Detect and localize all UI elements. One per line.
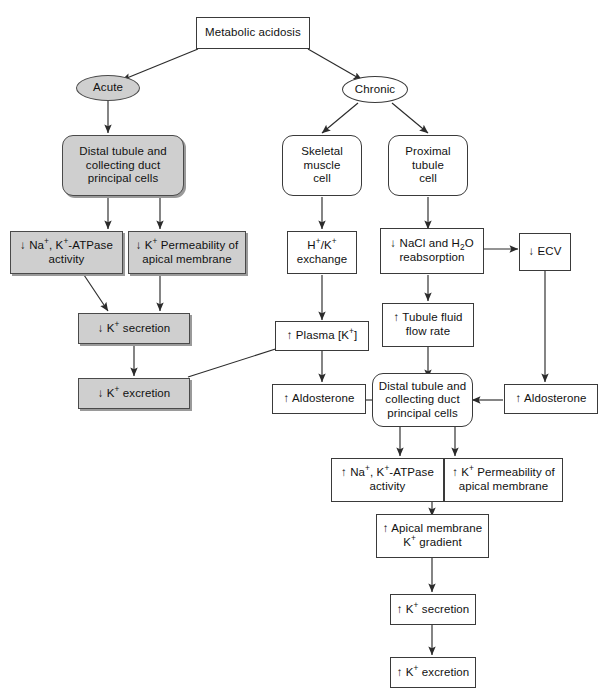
node-proximal-tubule-cell[interactable]: Proximaltubulecell bbox=[388, 135, 468, 196]
node-chronic-distal-tubule[interactable]: Distal tubule andcollecting ductprincipa… bbox=[372, 373, 473, 427]
node-h-k-exchange[interactable]: H+/K+exchange bbox=[287, 231, 357, 274]
node-dec-k-permeability[interactable]: ↓ K+ Permeability ofapical membrane bbox=[128, 231, 246, 274]
node-dec-na-k-atpase-label: ↓ Na+, K+-ATPaseactivity bbox=[17, 239, 116, 266]
node-dec-k-secretion[interactable]: ↓ K+ secretion bbox=[78, 313, 190, 344]
node-acute-distal-tubule[interactable]: Distal tubule andcollecting ductprincipa… bbox=[62, 135, 184, 196]
node-dec-k-secretion-label: ↓ K+ secretion bbox=[95, 322, 174, 336]
node-inc-apical-gradient-label: ↑ Apical membraneK+ gradient bbox=[380, 522, 486, 549]
node-dec-nacl-h2o[interactable]: ↓ NaCl and H2Oreabsorption bbox=[380, 228, 484, 274]
flowchart-canvas: Metabolic acidosis Acute Chronic Distal … bbox=[0, 0, 607, 689]
node-inc-na-k-atpase[interactable]: ↑ Na+, K+-ATPaseactivity bbox=[331, 458, 444, 502]
node-inc-plasma-k-label: ↑ Plasma [K+] bbox=[284, 329, 361, 343]
node-inc-k-secretion[interactable]: ↑ K+ secretion bbox=[390, 594, 476, 625]
node-chronic-distal-tubule-label: Distal tubule andcollecting ductprincipa… bbox=[376, 380, 469, 421]
node-skeletal-muscle-cell[interactable]: Skeletalmusclecell bbox=[282, 135, 362, 196]
node-metabolic-acidosis[interactable]: Metabolic acidosis bbox=[196, 17, 310, 49]
node-dec-k-excretion[interactable]: ↓ K+ excretion bbox=[78, 378, 190, 409]
node-chronic-label: Chronic bbox=[352, 83, 398, 97]
node-inc-k-permeability[interactable]: ↑ K+ Permeability ofapical membrane bbox=[444, 458, 563, 502]
node-inc-plasma-k[interactable]: ↑ Plasma [K+] bbox=[275, 321, 369, 351]
node-inc-tubule-fluid-flow-label: ↑ Tubule fluidflow rate bbox=[390, 311, 465, 338]
node-inc-tubule-fluid-flow[interactable]: ↑ Tubule fluidflow rate bbox=[382, 303, 474, 347]
node-dec-k-excretion-label: ↓ K+ excretion bbox=[95, 387, 174, 401]
node-h-k-exchange-label: H+/K+exchange bbox=[294, 239, 351, 266]
node-proximal-tubule-cell-label: Proximaltubulecell bbox=[402, 145, 454, 186]
node-dec-nacl-h2o-label: ↓ NaCl and H2Oreabsorption bbox=[387, 237, 476, 264]
node-metabolic-acidosis-label: Metabolic acidosis bbox=[202, 26, 304, 40]
node-inc-apical-gradient[interactable]: ↑ Apical membraneK+ gradient bbox=[376, 514, 489, 558]
node-acute-distal-tubule-label: Distal tubule andcollecting ductprincipa… bbox=[76, 145, 169, 186]
node-inc-na-k-atpase-label: ↑ Na+, K+-ATPaseactivity bbox=[338, 466, 437, 493]
node-inc-k-excretion-label: ↑ K+ excretion bbox=[394, 666, 473, 680]
node-chronic[interactable]: Chronic bbox=[342, 76, 408, 103]
node-skeletal-muscle-cell-label: Skeletalmusclecell bbox=[298, 145, 346, 186]
node-inc-aldosterone-right[interactable]: ↑ Aldosterone bbox=[504, 384, 598, 414]
node-dec-k-permeability-label: ↓ K+ Permeability ofapical membrane bbox=[133, 239, 242, 266]
node-dec-na-k-atpase[interactable]: ↓ Na+, K+-ATPaseactivity bbox=[10, 231, 123, 274]
node-inc-k-excretion[interactable]: ↑ K+ excretion bbox=[390, 657, 476, 688]
node-inc-aldosterone-left-label: ↑ Aldosterone bbox=[281, 392, 358, 406]
node-dec-ecv[interactable]: ↓ ECV bbox=[519, 233, 571, 271]
node-acute-label: Acute bbox=[90, 81, 126, 95]
node-inc-aldosterone-left[interactable]: ↑ Aldosterone bbox=[272, 384, 366, 414]
node-inc-k-secretion-label: ↑ K+ secretion bbox=[394, 603, 473, 617]
node-inc-k-permeability-label: ↑ K+ Permeability ofapical membrane bbox=[449, 466, 558, 493]
node-dec-ecv-label: ↓ ECV bbox=[525, 245, 564, 259]
node-acute[interactable]: Acute bbox=[76, 75, 140, 101]
node-inc-aldosterone-right-label: ↑ Aldosterone bbox=[513, 392, 590, 406]
